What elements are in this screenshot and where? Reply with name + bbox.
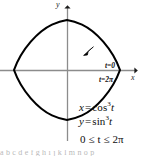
direction-arrow-icon bbox=[84, 47, 94, 56]
clipped-caption-row: a b c d e f g h i j k l m n o p bbox=[0, 150, 143, 156]
equation-y-function: sin bbox=[92, 115, 105, 127]
equation-x-parameter: t bbox=[111, 101, 114, 113]
equation-y-parameter: t bbox=[109, 115, 112, 127]
equation-block: x=cos3t y=sin3t 0 ≤ t ≤ 2π bbox=[79, 101, 124, 145]
parameter-start-label: t=0 bbox=[105, 62, 115, 70]
parameter-end-label: t=2π bbox=[99, 76, 113, 84]
equation-x-function: cos bbox=[92, 101, 107, 113]
equation-x: x=cos3t bbox=[79, 101, 124, 113]
equation-y: y=sin3t bbox=[79, 115, 124, 127]
astroid-figure: y x t=0 t=2π x=cos3t y=sin3t 0 ≤ t ≤ 2π … bbox=[0, 0, 143, 156]
y-axis-label: y bbox=[56, 1, 60, 9]
parameter-range: 0 ≤ t ≤ 2π bbox=[79, 133, 124, 145]
x-axis-label: x bbox=[131, 74, 135, 82]
